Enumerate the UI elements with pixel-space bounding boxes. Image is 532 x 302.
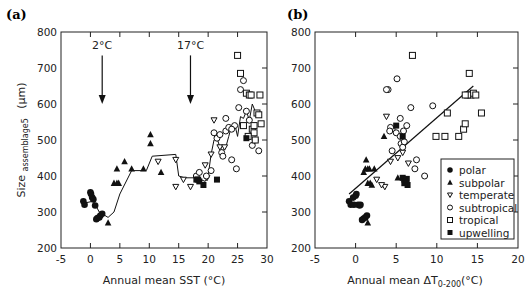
marker-temperate bbox=[374, 177, 380, 182]
y-tick-label: 400 bbox=[291, 170, 311, 182]
marker-tropical bbox=[473, 92, 479, 98]
marker-subtropical bbox=[408, 105, 414, 111]
marker-polar bbox=[364, 212, 371, 219]
marker-subtropical bbox=[394, 76, 400, 82]
marker-temperate bbox=[395, 156, 401, 161]
marker-subtropical bbox=[217, 132, 223, 138]
x-axis-title-b-unit: (°C) bbox=[461, 274, 483, 287]
data-points-a bbox=[80, 52, 264, 225]
marker-subtropical bbox=[236, 105, 242, 111]
y-tick-label: 500 bbox=[291, 134, 311, 146]
annotations-a: 2°C17°C bbox=[92, 39, 204, 104]
marker-subtropical bbox=[220, 153, 226, 159]
marker-polar bbox=[353, 191, 360, 198]
marker-subpolar bbox=[147, 140, 154, 146]
y-axis-title-unit: (μm) bbox=[15, 82, 28, 108]
marker-subtropical bbox=[412, 166, 418, 172]
marker-temperate bbox=[187, 184, 193, 189]
marker-upwelling bbox=[404, 176, 410, 182]
marker-tropical bbox=[433, 133, 439, 139]
marker-subtropical bbox=[401, 128, 407, 134]
marker-tropical bbox=[444, 110, 450, 116]
marker-subpolar bbox=[147, 131, 154, 137]
marker-upwelling bbox=[448, 230, 453, 235]
y-tick-label: 200 bbox=[291, 242, 311, 254]
marker-temperate bbox=[405, 161, 411, 166]
marker-subtropical bbox=[229, 157, 235, 163]
marker-polar bbox=[99, 211, 106, 218]
marker-subtropical bbox=[256, 148, 262, 154]
marker-subtropical bbox=[448, 205, 453, 210]
panel-b: (b) -505101520200300400500600700800 Annu… bbox=[287, 7, 525, 289]
x-tick-label: 20 bbox=[511, 253, 524, 265]
panel-b-label: (b) bbox=[287, 7, 308, 22]
x-axis-title-b: Annual mean ΔT0-200(°C) bbox=[347, 274, 483, 289]
legend: polarsubpolartemperatesubtropicaltropica… bbox=[441, 159, 517, 239]
marker-tropical bbox=[257, 92, 263, 98]
marker-subtropical bbox=[397, 115, 403, 121]
plot-area-a bbox=[61, 32, 267, 248]
x-tick-label: 0 bbox=[87, 253, 94, 265]
axis-ticks-a: -5051015202530200300400500600700800 bbox=[37, 26, 274, 265]
y-tick-label: 700 bbox=[291, 62, 311, 74]
y-tick-label: 700 bbox=[37, 62, 57, 74]
y-tick-label: 600 bbox=[37, 98, 57, 110]
x-tick-label: 10 bbox=[430, 253, 443, 265]
x-tick-label: 5 bbox=[393, 253, 400, 265]
marker-subtropical bbox=[223, 115, 229, 121]
marker-temperate bbox=[211, 118, 217, 123]
y-tick-label: 500 bbox=[37, 134, 57, 146]
y-axis-title-a: Size assemblage5 (μm) bbox=[15, 82, 31, 197]
marker-subtropical bbox=[383, 87, 389, 93]
legend-item-temperate: temperate bbox=[459, 189, 514, 201]
marker-subtropical bbox=[233, 166, 239, 172]
marker-temperate bbox=[155, 159, 161, 164]
annotation-label: 2°C bbox=[92, 39, 112, 52]
panel-a: (a) -5051015202530200300400500600700800 … bbox=[6, 7, 274, 287]
y-tick-label: 400 bbox=[37, 170, 57, 182]
marker-subpolar bbox=[114, 165, 121, 171]
x-tick-label: 20 bbox=[201, 253, 214, 265]
marker-tropical bbox=[252, 137, 258, 143]
x-tick-label: 5 bbox=[117, 253, 124, 265]
marker-subtropical bbox=[240, 78, 246, 84]
marker-subtropical bbox=[401, 139, 407, 145]
marker-subtropical bbox=[430, 103, 436, 109]
marker-tropical bbox=[251, 130, 257, 136]
marker-temperate bbox=[173, 157, 179, 162]
marker-temperate bbox=[383, 114, 389, 119]
x-tick-label: -5 bbox=[56, 253, 66, 265]
arrowhead-icon bbox=[99, 95, 106, 104]
marker-upwelling bbox=[393, 123, 399, 129]
marker-tropical bbox=[448, 218, 453, 223]
marker-subtropical bbox=[389, 148, 395, 154]
marker-polar bbox=[357, 202, 364, 209]
x-axis-title-b-main: Annual mean ΔT bbox=[347, 274, 438, 287]
panel-a-label: (a) bbox=[6, 7, 27, 22]
marker-polar bbox=[447, 167, 453, 173]
marker-temperate bbox=[208, 152, 214, 157]
marker-subtropical bbox=[422, 173, 428, 179]
marker-temperate bbox=[180, 177, 186, 182]
marker-tropical bbox=[462, 92, 468, 98]
svg-text:Size assemblage5: Size assemblage5 (μm) bbox=[15, 82, 31, 197]
legend-item-subpolar: subpolar bbox=[459, 177, 505, 189]
marker-tropical bbox=[238, 70, 244, 76]
marker-tropical bbox=[248, 92, 254, 98]
marker-upwelling bbox=[400, 133, 406, 139]
x-tick-label: 15 bbox=[471, 253, 484, 265]
marker-subtropical bbox=[238, 87, 244, 93]
marker-temperate bbox=[388, 159, 394, 164]
y-tick-label: 800 bbox=[37, 26, 57, 38]
annotation-label: 17°C bbox=[177, 39, 204, 52]
marker-upwelling bbox=[196, 178, 202, 184]
marker-polar bbox=[351, 202, 358, 209]
marker-temperate bbox=[400, 150, 406, 155]
marker-subpolar bbox=[158, 169, 165, 175]
marker-polar bbox=[81, 202, 88, 209]
marker-tropical bbox=[235, 52, 241, 58]
arrowhead-icon bbox=[187, 95, 194, 104]
legend-item-tropical: tropical bbox=[459, 214, 498, 226]
marker-tropical bbox=[409, 52, 415, 58]
marker-polar bbox=[90, 196, 97, 203]
